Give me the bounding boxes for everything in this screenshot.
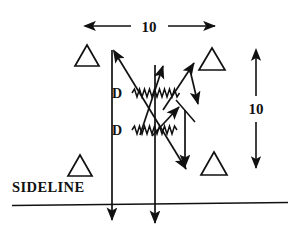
player-triangle-top-right xyxy=(199,48,225,70)
sideline-label: SIDELINE xyxy=(12,179,85,195)
sideline-boundary-line xyxy=(12,203,288,206)
player-triangle-bottom-left xyxy=(68,155,92,176)
defender-label-top: D xyxy=(112,86,122,101)
dimension-label-vertical: 10 xyxy=(249,101,264,117)
route-down-stick xyxy=(190,70,198,104)
player-triangle-top-left xyxy=(75,45,99,66)
defender-label-bottom: D xyxy=(112,123,122,138)
dimension-label-horizontal: 10 xyxy=(142,19,157,35)
play-diagram-canvas: 10 10 D D SIDELINE xyxy=(0,0,300,240)
football-play-diagram: 10 10 D D SIDELINE xyxy=(0,0,300,240)
player-triangle-bottom-right xyxy=(201,152,227,175)
